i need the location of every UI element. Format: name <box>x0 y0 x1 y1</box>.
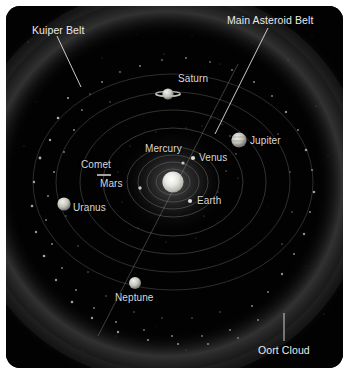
solar-system-scene <box>6 6 343 368</box>
planet-neptune <box>129 277 141 289</box>
comet-label: Comet <box>81 159 111 170</box>
planet-venus <box>191 156 195 160</box>
planet-label-jupiter: Jupiter <box>250 135 281 146</box>
planet-uranus <box>57 197 70 210</box>
planet-earth <box>188 199 192 203</box>
callout-label-main-asteroid-belt: Main Asteroid Belt <box>227 14 313 26</box>
planet-label-uranus: Uranus <box>73 202 106 213</box>
planet-label-mars: Mars <box>100 178 123 189</box>
planet-label-mercury: Mercury <box>145 143 182 154</box>
planet-mercury <box>181 161 184 164</box>
callout-label-kuiper-belt: Kuiper Belt <box>32 24 84 36</box>
planet-label-saturn: Saturn <box>178 73 208 84</box>
diagram-canvas: Kuiper Belt Main Asteroid Belt Oort Clou… <box>6 6 343 368</box>
solar-system-figure: Kuiper Belt Main Asteroid Belt Oort Clou… <box>0 0 349 374</box>
planet-mars <box>138 186 141 189</box>
planet-label-neptune: Neptune <box>115 292 154 303</box>
planet-label-earth: Earth <box>197 195 221 206</box>
callout-label-oort-cloud: Oort Cloud <box>258 344 310 356</box>
planet-label-venus: Venus <box>199 152 227 163</box>
sun <box>162 171 183 192</box>
